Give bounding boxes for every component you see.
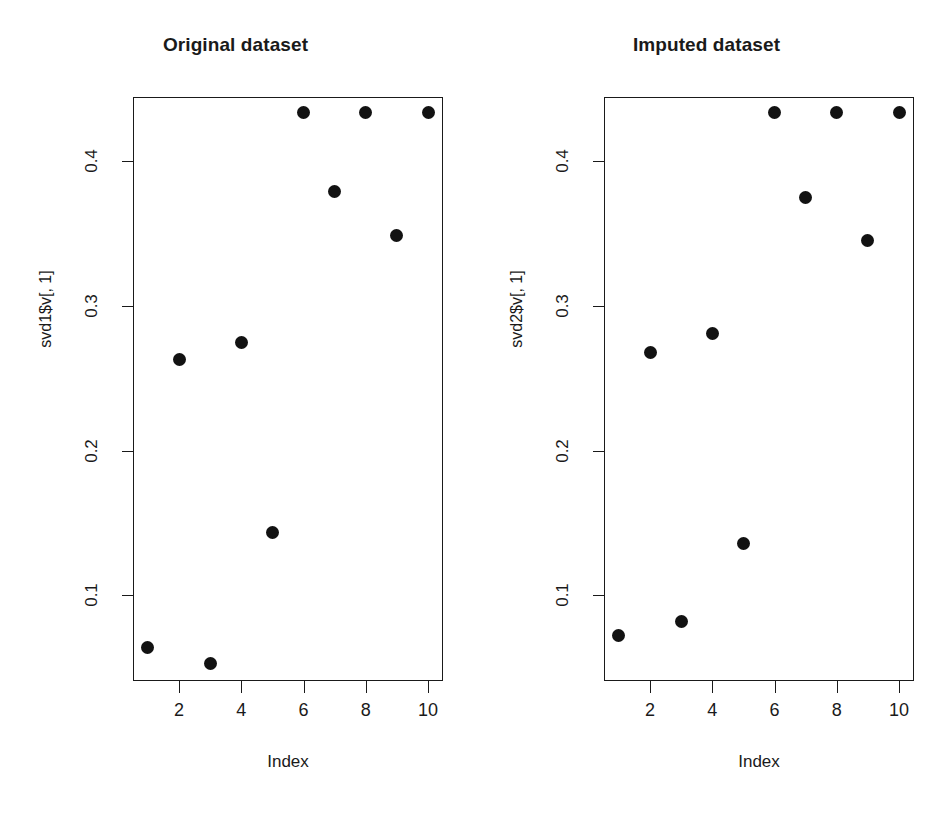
x-axis-tick <box>241 681 242 693</box>
y-axis-tick-label: 0.2 <box>62 441 122 461</box>
x-axis-tick <box>899 681 900 693</box>
x-axis-tick <box>179 681 180 693</box>
y-axis-tick-label: 0.3 <box>533 296 593 316</box>
y-axis-tick-label: 0.3 <box>62 296 122 316</box>
y-axis-tick-label: 0.1 <box>62 585 122 605</box>
x-axis-tick-label: 6 <box>274 700 334 721</box>
x-axis-title: Index <box>604 752 914 772</box>
y-axis-tick <box>122 595 133 596</box>
y-axis-tick-label: 0.1 <box>533 585 593 605</box>
y-axis-tick <box>122 161 133 162</box>
plot-title: Imputed dataset <box>471 34 942 56</box>
y-axis-tick-label: 0.4 <box>533 151 593 171</box>
x-axis-tick <box>428 681 429 693</box>
y-axis-tick <box>593 451 604 452</box>
y-axis-tick <box>122 306 133 307</box>
x-axis-tick <box>650 681 651 693</box>
x-axis-tick-label: 6 <box>745 700 805 721</box>
y-axis-title: svd1$v[, 1] <box>37 219 55 399</box>
x-axis-tick-label: 8 <box>807 700 867 721</box>
x-axis-tick-label: 4 <box>211 700 271 721</box>
y-axis-tick <box>122 451 133 452</box>
plot-panel-original: Original dataset svd1$v[, 1] Index 0.10.… <box>0 0 471 815</box>
x-axis-tick <box>775 681 776 693</box>
x-axis-tick-label: 8 <box>336 700 396 721</box>
plot-area-border <box>133 97 443 681</box>
x-axis-title: Index <box>133 752 443 772</box>
x-axis-tick <box>837 681 838 693</box>
x-axis-tick-label: 10 <box>869 700 929 721</box>
y-axis-title: svd2$v[, 1] <box>508 219 526 399</box>
y-axis-tick-label: 0.4 <box>62 151 122 171</box>
plot-panel-imputed: Imputed dataset svd2$v[, 1] Index 0.10.2… <box>471 0 942 815</box>
x-axis-tick-label: 2 <box>620 700 680 721</box>
plot-title: Original dataset <box>0 34 471 56</box>
y-axis-tick <box>593 161 604 162</box>
x-axis-tick-label: 2 <box>149 700 209 721</box>
y-axis-tick-label: 0.2 <box>533 441 593 461</box>
x-axis-tick-label: 4 <box>682 700 742 721</box>
y-axis-tick <box>593 306 604 307</box>
figure-canvas: Original dataset svd1$v[, 1] Index 0.10.… <box>0 0 943 815</box>
x-axis-tick <box>304 681 305 693</box>
x-axis-tick <box>712 681 713 693</box>
plot-area-border <box>604 97 914 681</box>
x-axis-tick <box>366 681 367 693</box>
x-axis-tick-label: 10 <box>398 700 458 721</box>
y-axis-tick <box>593 595 604 596</box>
